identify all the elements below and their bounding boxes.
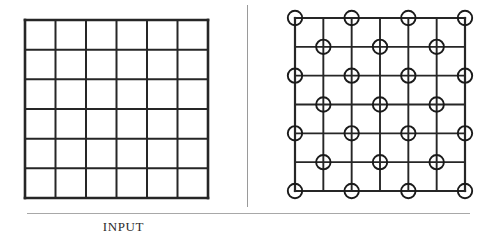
input-grid-svg xyxy=(25,20,208,198)
grid-node-circle xyxy=(429,155,443,169)
grid-node-circle xyxy=(458,126,472,140)
input-grid xyxy=(25,20,208,198)
grid-node-circle xyxy=(288,184,302,198)
grid-node-circle xyxy=(288,68,302,82)
panel-divider xyxy=(247,5,248,207)
grid-node-circle xyxy=(373,40,387,54)
grid-node-circle xyxy=(344,184,358,198)
grid-node-circle xyxy=(401,11,415,25)
grid-node-circle xyxy=(316,155,330,169)
panel-output: OUTPUT xyxy=(248,0,495,239)
grid-node-circle xyxy=(288,11,302,25)
grid-node-circle xyxy=(429,97,443,111)
grid-node-circle xyxy=(458,68,472,82)
grid-node-circle xyxy=(458,184,472,198)
output-grid xyxy=(295,18,465,191)
grid-node-circle xyxy=(316,97,330,111)
grid-node-circle xyxy=(401,184,415,198)
grid-node-circle xyxy=(316,40,330,54)
grid-node-circle xyxy=(401,126,415,140)
output-grid-svg xyxy=(295,18,465,191)
grid-node-circle xyxy=(344,126,358,140)
grid-node-circle xyxy=(373,97,387,111)
caption-rule xyxy=(27,213,470,214)
grid-node-circle xyxy=(458,11,472,25)
grid-node-circle xyxy=(344,11,358,25)
caption-input: INPUT xyxy=(0,219,247,235)
grid-node-circle xyxy=(344,68,358,82)
figure-root: INPUT OUTPUT xyxy=(0,0,495,239)
grid-node-circle xyxy=(429,40,443,54)
grid-node-circle xyxy=(288,126,302,140)
panel-input: INPUT xyxy=(0,0,247,239)
grid-node-circle xyxy=(401,68,415,82)
grid-node-circle xyxy=(373,155,387,169)
